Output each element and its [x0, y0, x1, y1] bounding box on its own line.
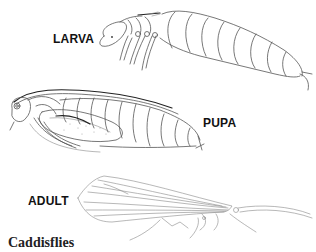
- caddisfly-life-stages-figure: LARVA PUPA ADULT Caddisflies: [0, 0, 316, 252]
- adult-illustration: [0, 0, 316, 252]
- larva-label: LARVA: [53, 33, 94, 45]
- pupa-label: PUPA: [203, 117, 236, 129]
- figure-caption: Caddisflies: [8, 236, 74, 250]
- adult-label: ADULT: [28, 195, 69, 207]
